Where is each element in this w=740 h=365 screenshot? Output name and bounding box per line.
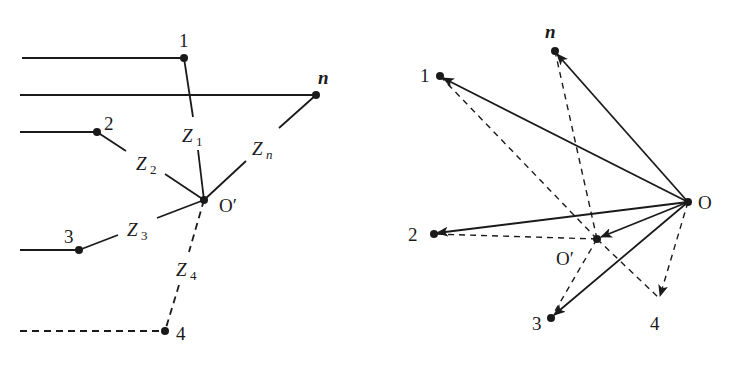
svg-text:Z: Z: [127, 219, 138, 240]
vector-o-n: [557, 54, 688, 202]
label-zn: Z n: [252, 138, 273, 162]
label-node-3: 3: [64, 226, 74, 247]
branch-z2-lower: [165, 174, 204, 200]
right-phasor-diagram: 1 n O 2 O′ 3 4: [408, 21, 712, 334]
dashed-oprime-1: [440, 76, 597, 239]
label-z2: Z 2: [136, 153, 157, 177]
label-node-4: 4: [176, 323, 186, 344]
node-3: [75, 246, 83, 254]
dashed-oprime-2: [434, 234, 597, 239]
svg-text:Z: Z: [182, 125, 193, 146]
diagram-canvas: 1 n 2 3 4 O′ Z 1 Z n Z 2 Z 3 Z 4: [0, 0, 740, 365]
vector-o-3: [554, 202, 688, 315]
svg-text:Z: Z: [176, 259, 187, 280]
label-node-n: n: [318, 67, 329, 88]
point-2: [430, 230, 438, 238]
point-o-prime: [593, 235, 601, 243]
branch-z4-upper: [189, 200, 204, 252]
svg-text:3: 3: [141, 228, 148, 243]
node-n: [312, 91, 320, 99]
branch-zn-upper: [279, 95, 316, 128]
branch-z1-lower: [198, 150, 204, 200]
label-point-n: n: [545, 21, 556, 42]
label-node-2: 2: [104, 113, 114, 134]
label-z1: Z 1: [182, 125, 203, 149]
label-o-prime: O′: [219, 195, 237, 216]
node-1: [180, 54, 188, 62]
label-point-o: O: [698, 192, 712, 213]
svg-text:4: 4: [190, 268, 197, 283]
point-o: [684, 198, 692, 206]
node-4: [161, 327, 169, 335]
node-2: [93, 128, 101, 136]
point-3: [547, 314, 555, 322]
node-o-prime: [200, 196, 208, 204]
point-1: [436, 72, 444, 80]
branch-z3-lower: [79, 235, 118, 250]
label-point-o-prime: O′: [556, 248, 574, 269]
point-n: [551, 47, 559, 55]
branch-z1-upper: [184, 58, 193, 117]
label-point-3: 3: [532, 313, 542, 334]
branch-z3-upper: [157, 200, 204, 218]
svg-text:Z: Z: [252, 138, 263, 159]
svg-text:2: 2: [150, 162, 157, 177]
label-z3: Z 3: [127, 219, 148, 243]
dashed-oprime-4: [597, 239, 659, 298]
label-point-1: 1: [420, 65, 430, 86]
svg-text:Z: Z: [136, 153, 147, 174]
svg-text:1: 1: [196, 134, 203, 149]
svg-text:n: n: [266, 147, 273, 162]
label-point-2: 2: [408, 224, 418, 245]
label-node-1: 1: [179, 30, 189, 51]
label-z4: Z 4: [176, 259, 197, 283]
label-point-4: 4: [650, 313, 660, 334]
left-star-circuit: 1 n 2 3 4 O′ Z 1 Z n Z 2 Z 3 Z 4: [20, 30, 329, 344]
branch-z2-upper: [97, 132, 126, 151]
dashed-o-4-arrow: [660, 202, 688, 296]
